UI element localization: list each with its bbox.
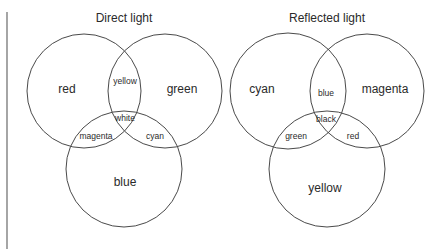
- blue-circle: [66, 111, 182, 227]
- label-green: green: [167, 82, 198, 96]
- venn-diagrams-canvas: Direct light red green blue yellow magen…: [0, 0, 446, 249]
- label-blue: blue: [114, 175, 137, 189]
- direct-light-title: Direct light: [96, 11, 153, 25]
- label-magenta: magenta: [362, 82, 409, 96]
- direct-light-diagram: Direct light red green blue yellow magen…: [27, 11, 222, 227]
- reflected-light-diagram: Reflected light cyan magenta yellow blue…: [230, 11, 424, 227]
- yellow-circle: [269, 111, 385, 227]
- label-yellow: yellow: [308, 181, 342, 195]
- label-blue-overlap: blue: [318, 88, 334, 98]
- label-magenta-overlap: magenta: [79, 131, 112, 141]
- label-cyan-overlap: cyan: [146, 131, 164, 141]
- label-yellow-overlap: yellow: [113, 76, 137, 86]
- label-white-center: white: [114, 113, 135, 123]
- label-cyan: cyan: [249, 82, 274, 96]
- label-green-overlap: green: [285, 131, 307, 141]
- reflected-light-title: Reflected light: [289, 11, 366, 25]
- label-red-overlap: red: [347, 131, 360, 141]
- label-red: red: [58, 82, 75, 96]
- label-black-center: black: [316, 114, 337, 124]
